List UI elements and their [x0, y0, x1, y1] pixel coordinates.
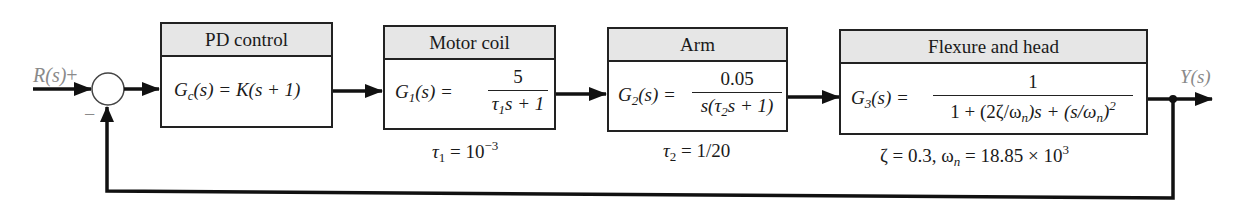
input-label: R(s)+: [33, 64, 78, 87]
block-title: Motor coil: [385, 27, 554, 60]
output-label: Y(s): [1180, 66, 1211, 88]
block-title: Arm: [609, 29, 786, 62]
block-flexure-and-head: Flexure and head G3(s) = 1 1 + (2ζ/ωn)s …: [839, 29, 1148, 135]
param-tau1: τ1 = 10−3: [432, 138, 498, 166]
block-title: PD control: [162, 24, 331, 57]
transfer-function-fraction: 0.05 s(τ2s + 1): [692, 68, 782, 120]
block-arm: Arm G2(s) = 0.05 s(τ2s + 1): [607, 27, 788, 132]
feedback-sign: −: [84, 103, 95, 126]
transfer-function-fraction: 5 τ1s + 1: [488, 66, 548, 118]
transfer-function: Gc(s) = K(s + 1): [174, 79, 300, 104]
block-pd-control: PD control Gc(s) = K(s + 1): [160, 22, 333, 128]
transfer-function-lhs: G1(s) =: [395, 81, 453, 106]
transfer-function-fraction: 1 1 + (2ζ/ωn)s + (s/ωn)2: [933, 71, 1133, 126]
param-tau2: τ2 = 1/20: [663, 140, 730, 165]
block-title: Flexure and head: [841, 31, 1146, 64]
transfer-function-lhs: G3(s) =: [851, 87, 909, 112]
block-motor-coil: Motor coil G1(s) = 5 τ1s + 1: [383, 25, 556, 130]
param-zeta-omega: ζ = 0.3, ωn = 18.85 × 103: [880, 142, 1069, 170]
summing-junction: [92, 73, 124, 105]
transfer-function-lhs: G2(s) =: [618, 84, 676, 109]
